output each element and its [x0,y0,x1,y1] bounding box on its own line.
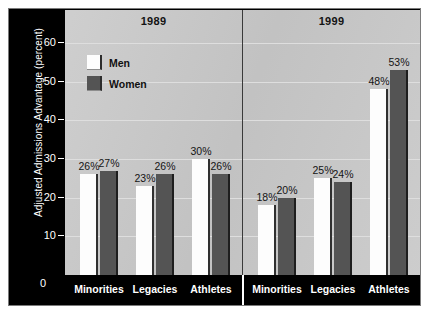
y-tick-label-20: 20 [22,192,56,203]
y-tick-mark-10 [58,235,64,236]
bar-value-1999-minorities-women: 20% [271,184,303,196]
y-tick-label-10: 10 [22,230,56,241]
y-tick-mark-50 [58,81,64,82]
legend-item-men: Men [87,52,147,73]
bar-1999-minorities-men [258,205,276,275]
bar-1999-legacies-men [314,178,332,275]
bar-1999-athletes-women [390,70,408,275]
legend-swatch-men-icon [87,55,102,70]
bar-value-1999-legacies-women: 24% [327,168,359,180]
bar-1989-minorities-men [80,174,98,275]
y-tick-label-60: 60 [22,37,56,48]
y-tick-label-50: 50 [22,76,56,87]
legend-label-men: Men [109,57,130,69]
bar-value-1999-athletes-women: 53% [383,56,415,68]
panel-title-1999: 1999 [243,15,420,27]
y-tick-mark-40 [58,119,64,120]
y-tick-mark-20 [58,197,64,198]
plot-area: 1989 1999 Men Women 26%27%23%26%30%26%18… [65,10,420,275]
bar-1999-legacies-women [334,182,352,275]
legend-item-women: Women [87,73,147,94]
bar-1989-athletes-women [212,174,230,275]
bar-1989-legacies-men [136,186,154,275]
bar-1989-athletes-men [192,159,210,275]
chart-figure: Adjusted Admissions Advantage (percent) … [8,8,421,306]
bar-1999-minorities-women [278,198,296,275]
legend-swatch-women-icon [87,76,102,91]
legend: Men Women [87,52,147,94]
bar-value-1989-athletes-women: 26% [205,160,237,172]
panel-title-1989: 1989 [65,15,242,27]
category-label-1999-athletes: Athletes [349,283,429,295]
bar-1989-legacies-women [156,174,174,275]
y-axis: Adjusted Admissions Advantage (percent) … [9,9,65,305]
y-tick-zero: 0 [40,277,46,289]
y-tick-mark-60 [58,42,64,43]
bar-1999-athletes-men [370,89,388,275]
y-tick-label-30: 30 [22,153,56,164]
panel-divider [242,10,243,275]
bar-1989-minorities-women [100,171,118,275]
y-tick-mark-30 [58,158,64,159]
bar-value-1989-legacies-women: 26% [149,160,181,172]
bar-value-1989-athletes-men: 30% [185,145,217,157]
y-tick-label-40: 40 [22,114,56,125]
legend-label-women: Women [109,78,147,90]
bar-value-1989-minorities-women: 27% [93,157,125,169]
x-axis-band: MinoritiesLegaciesAthletesMinoritiesLega… [65,275,420,305]
